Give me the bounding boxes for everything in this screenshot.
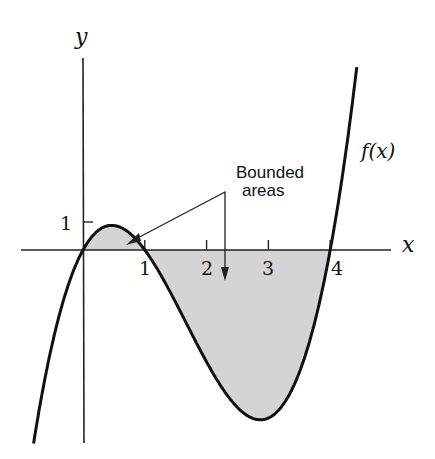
x-axis-label: x	[402, 232, 414, 257]
annotation-label-line1: Bounded	[236, 164, 304, 181]
function-label: f(x)	[361, 139, 395, 163]
x-tick-label-3: 3	[262, 257, 274, 279]
y-axis-label: y	[75, 24, 87, 49]
x-tick-label-2: 2	[201, 257, 213, 279]
y-tick-label-1: 1	[60, 212, 72, 234]
chart: y x f(x) 1 1 2 3 4 Bounded areas	[0, 0, 435, 459]
x-ticks	[145, 240, 330, 250]
shaded-area-right	[145, 250, 330, 420]
x-tick-label-4: 4	[331, 257, 343, 279]
x-tick-label-1: 1	[139, 257, 151, 279]
annotation-label-line2: areas	[242, 182, 285, 199]
